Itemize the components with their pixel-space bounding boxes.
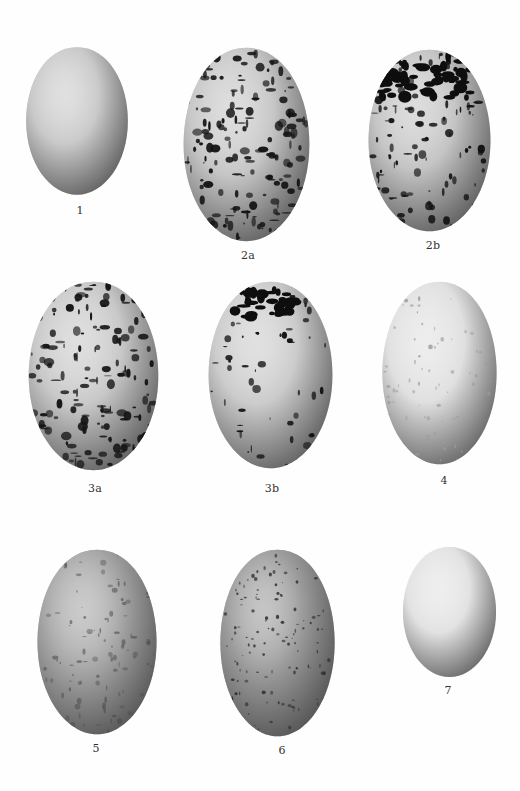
egg-label-2b: 2b [426,239,440,252]
egg-plate: 12a2b3a3b4567 [0,0,520,791]
egg-6 [218,547,337,739]
egg-label-4: 4 [440,474,447,487]
egg-3a [26,279,161,473]
egg-7 [401,545,498,679]
egg-label-3a: 3a [88,482,102,495]
egg-4 [380,279,499,467]
egg-1 [24,45,130,197]
egg-3b [206,279,335,471]
egg-2b [366,47,493,234]
egg-label-6: 6 [278,744,285,757]
egg-label-7: 7 [444,684,451,697]
egg-label-1: 1 [76,204,83,217]
egg-5 [35,547,159,737]
egg-label-5: 5 [92,742,99,755]
egg-label-3b: 3b [265,482,279,495]
egg-label-2a: 2a [241,249,255,262]
egg-2a [181,45,312,244]
